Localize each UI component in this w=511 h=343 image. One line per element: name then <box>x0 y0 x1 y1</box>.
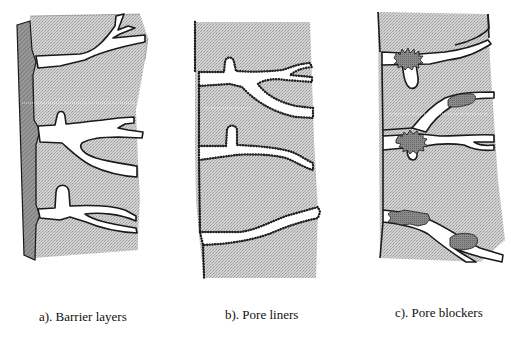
figure-canvas <box>0 0 511 343</box>
panel-b-pore-liners <box>195 22 320 278</box>
panel-c-pore-blockers <box>378 12 505 262</box>
blocker-5 <box>450 233 478 249</box>
panel-a-barrier-layers <box>17 14 148 260</box>
caption-barrier-layers: a). Barrier layers <box>39 309 127 325</box>
caption-pore-liners: b). Pore liners <box>225 307 298 323</box>
caption-pore-blockers: c). Pore blockers <box>395 305 483 321</box>
